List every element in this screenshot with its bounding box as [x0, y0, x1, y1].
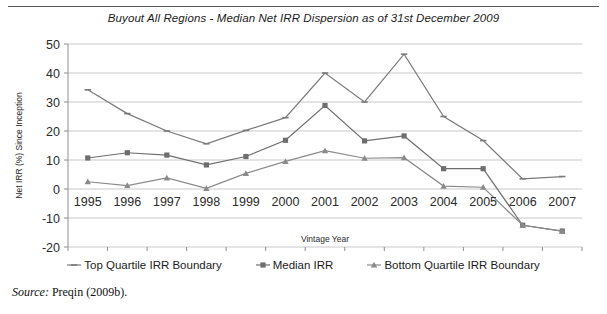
source-text: Preqin (2009b).	[52, 285, 127, 299]
x-tick-1996: 1996	[113, 195, 141, 209]
x-tick-2003: 2003	[390, 195, 418, 209]
legend-label-0: Top Quartile IRR Boundary	[84, 259, 221, 271]
y-tick--20: -20	[42, 241, 60, 255]
y-tick-20: 20	[46, 125, 60, 139]
series-1-marker	[322, 103, 327, 108]
legend-item-1[interactable]: Median IRR	[256, 259, 334, 271]
legend-item-2[interactable]: Bottom Quartile IRR Boundary	[367, 259, 539, 271]
series-1-marker	[125, 150, 130, 155]
x-tick-2005: 2005	[469, 195, 497, 209]
y-axis-tick-labels: 50403020100-10-20	[42, 38, 60, 255]
x-tick-1997: 1997	[153, 195, 181, 209]
series-1-marker	[204, 162, 209, 167]
series-1-marker	[283, 138, 288, 143]
x-tick-2002: 2002	[351, 195, 379, 209]
series-2-marker	[164, 175, 170, 181]
y-tick-10: 10	[46, 154, 60, 168]
series-1-marker	[401, 133, 406, 138]
y-tick-30: 30	[46, 96, 60, 110]
source-label: Source:	[12, 285, 49, 299]
chart-legend: Top Quartile IRR BoundaryMedian IRRBotto…	[0, 259, 607, 271]
y-axis-title: Net IRR (%) Since Inception	[14, 92, 24, 199]
series-1-marker	[441, 166, 446, 171]
x-tick-2006: 2006	[509, 195, 537, 209]
series-line-2	[88, 151, 562, 231]
x-tick-2000: 2000	[272, 195, 300, 209]
legend-label-2: Bottom Quartile IRR Boundary	[384, 259, 539, 271]
legend-marker-triangle-icon	[367, 259, 381, 271]
series-2-marker	[322, 148, 328, 154]
series-1-marker	[85, 155, 90, 160]
series-1-marker	[243, 154, 248, 159]
source-caption: Source: Preqin (2009b).	[12, 285, 127, 300]
series-1-marker	[362, 138, 367, 143]
y-tick--10: -10	[42, 212, 60, 226]
x-tick-1998: 1998	[192, 195, 220, 209]
x-tick-1995: 1995	[74, 195, 102, 209]
x-tick-1999: 1999	[232, 195, 260, 209]
y-tick-40: 40	[46, 67, 60, 81]
x-axis-title: Vintage Year	[301, 234, 349, 244]
legend-marker-square-icon	[256, 259, 270, 271]
x-tick-2004: 2004	[430, 195, 458, 209]
y-tick-50: 50	[46, 38, 60, 52]
series-1-marker	[164, 152, 169, 157]
x-axis-tick-labels: 1995199619971998199920002001200220032004…	[74, 195, 576, 209]
legend-label-1: Median IRR	[273, 259, 334, 271]
legend-marker-dash-icon	[67, 259, 81, 271]
x-tick-2007: 2007	[548, 195, 576, 209]
legend-item-0[interactable]: Top Quartile IRR Boundary	[67, 259, 221, 271]
series-line-1	[88, 105, 562, 231]
chart-page: Buyout All Regions - Median Net IRR Disp…	[0, 0, 607, 314]
series-1-marker	[481, 166, 486, 171]
x-tick-2001: 2001	[311, 195, 339, 209]
y-tick-0: 0	[53, 183, 60, 197]
gridlines	[68, 44, 582, 247]
